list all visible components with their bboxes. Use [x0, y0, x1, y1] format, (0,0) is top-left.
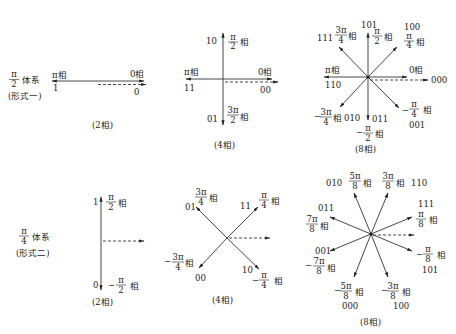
caption: (4相)	[212, 295, 233, 305]
svg-text:π: π	[11, 69, 17, 79]
svg-text:10: 10	[206, 36, 217, 46]
svg-text:相: 相	[209, 193, 218, 203]
svg-text:000: 000	[342, 301, 358, 311]
svg-text:π相: π相	[52, 70, 67, 80]
caption: (8相)	[355, 144, 376, 154]
svg-text:相: 相	[240, 37, 249, 47]
svg-text:相: 相	[375, 129, 384, 139]
diagram-pi2-4phase: 10 π 2 相 π相 11 0相 00 01 3π 2 相 (4相)	[184, 32, 278, 150]
svg-text:相: 相	[271, 196, 280, 206]
svg-text:相: 相	[320, 221, 329, 231]
svg-text:−: −	[252, 275, 259, 285]
svg-text:3π: 3π	[196, 187, 207, 197]
svg-text:01: 01	[185, 202, 196, 212]
svg-text:3π: 3π	[388, 281, 399, 291]
svg-text:−: −	[305, 260, 312, 270]
svg-text:4: 4	[21, 236, 26, 246]
svg-text:相: 相	[429, 215, 438, 225]
svg-text:体系: 体系	[32, 232, 50, 242]
svg-text:相: 相	[333, 113, 342, 123]
diagram-pi2-2phase: π相 1 0相 0 (2相)	[52, 69, 146, 130]
svg-text:相: 相	[185, 258, 194, 268]
svg-text:0相: 0相	[130, 69, 144, 79]
svg-text:π: π	[21, 226, 27, 236]
svg-text:2: 2	[118, 285, 123, 295]
svg-text:π: π	[365, 123, 371, 133]
svg-text:4: 4	[406, 40, 411, 50]
svg-text:00: 00	[195, 273, 206, 283]
svg-text:相: 相	[423, 105, 432, 115]
svg-text:001: 001	[315, 246, 331, 256]
diagram-pi4-8phase: 010 5π 8 相 3π 8 相 110 011 7π 8 相 111 π 8…	[305, 171, 446, 327]
svg-text:2: 2	[374, 36, 379, 46]
svg-text:3π: 3π	[336, 25, 347, 35]
svg-text:7π: 7π	[314, 256, 325, 266]
svg-text:相: 相	[240, 112, 249, 122]
svg-text:3π: 3π	[383, 171, 394, 181]
svg-text:8: 8	[352, 181, 357, 191]
svg-text:π: π	[118, 275, 124, 285]
svg-text:8: 8	[418, 219, 423, 229]
svg-text:3π: 3π	[228, 105, 239, 115]
svg-text:1: 1	[93, 197, 98, 207]
svg-text:110: 110	[325, 80, 341, 90]
svg-text:−: −	[402, 105, 409, 115]
svg-text:2: 2	[365, 133, 370, 143]
svg-text:相: 相	[384, 32, 393, 42]
svg-text:相: 相	[130, 281, 139, 291]
svg-text:(形式二): (形式二)	[16, 248, 50, 258]
svg-text:2: 2	[230, 115, 235, 125]
caption: (2相)	[92, 297, 113, 307]
svg-text:110: 110	[411, 178, 427, 188]
svg-text:011: 011	[372, 114, 388, 124]
svg-text:π: π	[374, 26, 380, 36]
svg-text:3π: 3π	[321, 107, 332, 117]
svg-text:111: 111	[418, 199, 434, 209]
svg-text:(形式一): (形式一)	[8, 91, 42, 101]
svg-text:5π: 5π	[350, 171, 361, 181]
svg-text:π相: π相	[325, 65, 340, 75]
svg-text:0: 0	[93, 280, 98, 290]
svg-text:2: 2	[230, 41, 235, 51]
svg-text:0: 0	[134, 87, 139, 97]
svg-text:4: 4	[198, 197, 203, 207]
svg-text:111: 111	[317, 33, 333, 43]
svg-text:2: 2	[11, 79, 16, 89]
svg-text:11: 11	[240, 201, 251, 211]
svg-text:相: 相	[416, 37, 425, 47]
svg-text:11: 11	[184, 83, 195, 93]
svg-text:8: 8	[390, 291, 395, 301]
svg-text:8: 8	[385, 181, 390, 191]
svg-text:相: 相	[355, 287, 364, 297]
svg-text:π: π	[108, 192, 114, 202]
svg-text:4: 4	[338, 35, 343, 45]
svg-text:1: 1	[53, 83, 58, 93]
svg-text:4: 4	[411, 109, 416, 119]
svg-text:2: 2	[108, 202, 113, 212]
svg-text:−: −	[416, 249, 423, 259]
caption: (4相)	[214, 140, 235, 150]
svg-text:4: 4	[261, 280, 266, 290]
svg-text:π: π	[425, 244, 431, 254]
svg-text:相: 相	[402, 287, 411, 297]
svg-text:0相: 0相	[258, 67, 272, 77]
svg-text:π: π	[261, 270, 267, 280]
svg-text:相: 相	[363, 178, 372, 188]
svg-text:5π: 5π	[341, 281, 352, 291]
caption: (8相)	[360, 317, 381, 327]
svg-text:4: 4	[175, 262, 180, 272]
svg-text:相: 相	[437, 250, 446, 260]
svg-text:010: 010	[344, 113, 360, 123]
svg-text:000: 000	[431, 75, 447, 85]
diagram-pi4-2phase: 1 π 2 相 0 − π 2 相 (2相)	[92, 192, 144, 307]
svg-text:−: −	[108, 280, 115, 290]
svg-text:π: π	[411, 99, 417, 109]
phase-diagram-figure: π 2 体系 (形式一) π相 1 0相 0 (2相) 10 π 2 相 π相 …	[0, 0, 456, 334]
svg-text:0相: 0相	[409, 65, 423, 75]
svg-text:π: π	[418, 209, 424, 219]
svg-text:体系: 体系	[22, 75, 40, 85]
svg-text:8: 8	[343, 291, 348, 301]
svg-text:4: 4	[323, 117, 328, 127]
svg-text:8: 8	[309, 224, 314, 234]
svg-text:−: −	[356, 127, 363, 137]
